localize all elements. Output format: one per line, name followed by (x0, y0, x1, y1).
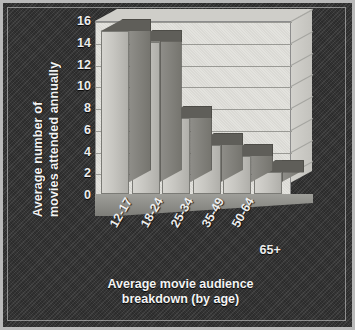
x-axis-title-line-2: breakdown (by age) (13, 292, 348, 307)
bar-front-face (101, 31, 129, 194)
y-axis-tick-labels: 0246810121416 (65, 17, 91, 217)
y-axis-tick-16: 16 (77, 14, 91, 28)
y-axis-tick-8: 8 (84, 101, 91, 115)
plot-area (95, 21, 313, 217)
y-axis-tick-10: 10 (77, 79, 91, 93)
bar-side-face (129, 19, 151, 182)
y-axis-tick-4: 4 (84, 145, 91, 159)
y-axis-tick-14: 14 (77, 36, 91, 50)
y-axis-tick-2: 2 (84, 166, 91, 180)
y-axis-tick-12: 12 (77, 58, 91, 72)
x-axis-tick-65+: 65+ (260, 243, 281, 257)
bar-series (95, 21, 313, 217)
x-axis-title-line-1: Average movie audience (13, 277, 348, 292)
y-axis-tick-0: 0 (84, 188, 91, 202)
chart-figure: Average number of movies attended annual… (0, 0, 355, 330)
y-axis-title-line-2: movies attended annually (47, 62, 61, 217)
bar-12-17 (101, 31, 129, 194)
y-axis-title-line-1: Average number of (31, 102, 45, 217)
bar-side-face (160, 30, 182, 182)
x-axis-title: Average movie audience breakdown (by age… (13, 277, 348, 307)
y-axis-tick-6: 6 (84, 123, 91, 137)
x-axis-tick-labels: 12-1718-2425-3435-4950-6465+ (95, 217, 325, 275)
